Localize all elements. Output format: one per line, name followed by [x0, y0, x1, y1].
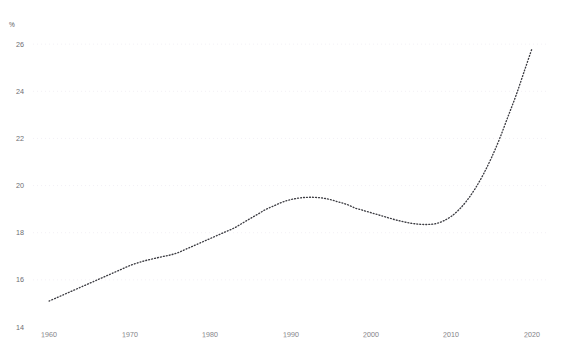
chart-container: % 14161820222426 19601970198019902000201… — [0, 0, 564, 355]
line-chart-plot — [0, 0, 564, 355]
data-series-line — [49, 49, 532, 301]
gridlines — [33, 44, 548, 280]
